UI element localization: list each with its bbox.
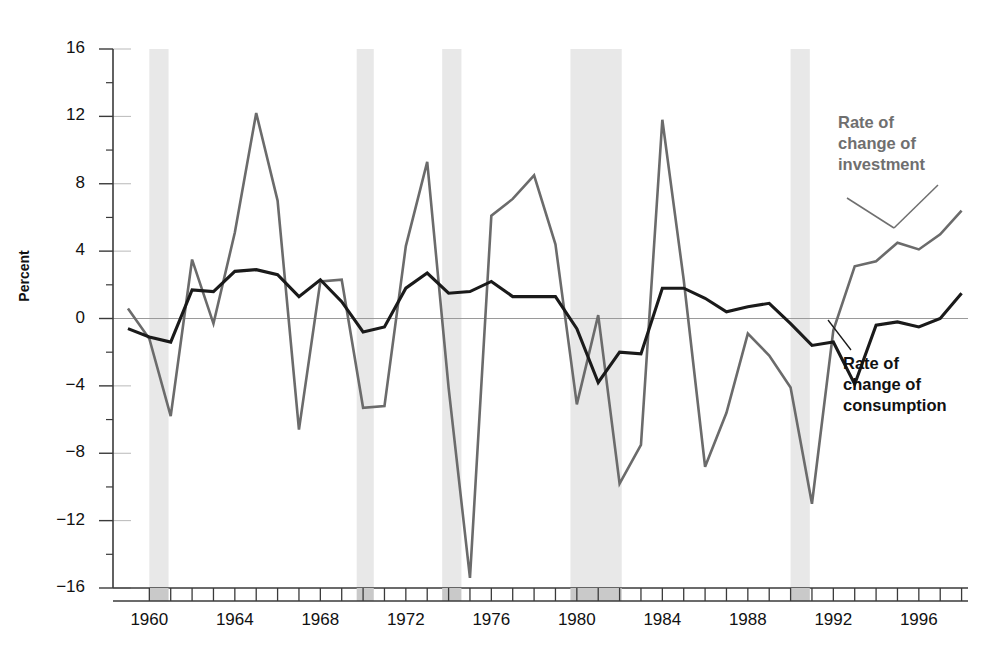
annotation-investment: Rate of change of investment (838, 112, 925, 175)
x-axis-tick-label: 1980 (542, 610, 612, 630)
annotation-consumption-line2: change of (843, 374, 947, 395)
x-axis-tick-label: 1976 (456, 610, 526, 630)
annotation-consumption-line3: consumption (843, 395, 947, 416)
y-axis-tick-label: −12 (39, 510, 85, 530)
recession-band-axis-stub (442, 588, 461, 601)
x-axis-tick-label: 1968 (285, 610, 355, 630)
y-axis-tick-label: 16 (39, 38, 85, 58)
recession-band-axis-stub (149, 588, 168, 601)
x-axis-tick-label: 1964 (200, 610, 270, 630)
x-axis-tick-label: 1972 (371, 610, 441, 630)
investment-annotation-leader-2 (894, 185, 938, 228)
y-axis-tick-label: 4 (39, 240, 85, 260)
chart-figure: Percent 1612840−4−8−12−16 19601964196819… (0, 0, 1005, 659)
x-axis-tick-label: 1996 (884, 610, 954, 630)
y-axis-tick-label: −4 (39, 375, 85, 395)
recession-band-axis-stub (357, 588, 374, 601)
x-axis-tick-label: 1984 (627, 610, 697, 630)
investment-annotation-leader (847, 198, 894, 228)
y-axis-tick-label: −16 (39, 577, 85, 597)
y-axis-tick-label: 0 (39, 308, 85, 328)
y-axis-tick-label: −8 (39, 442, 85, 462)
x-axis-tick-label: 1960 (114, 610, 184, 630)
chart-plot-area (0, 0, 1005, 659)
x-axis-tick-label: 1992 (798, 610, 868, 630)
y-axis-tick-label: 12 (39, 105, 85, 125)
annotation-consumption-line1: Rate of (843, 353, 947, 374)
y-axis-tick-label: 8 (39, 173, 85, 193)
x-axis-tick-label: 1988 (713, 610, 783, 630)
consumption-series-line (128, 270, 962, 385)
annotation-investment-line3: investment (838, 154, 925, 175)
annotation-investment-line1: Rate of (838, 112, 925, 133)
recession-band-axis-stub (570, 588, 621, 601)
annotation-consumption: Rate of change of consumption (843, 353, 947, 416)
annotation-investment-line2: change of (838, 133, 925, 154)
recession-band-axis-stub (791, 588, 810, 601)
